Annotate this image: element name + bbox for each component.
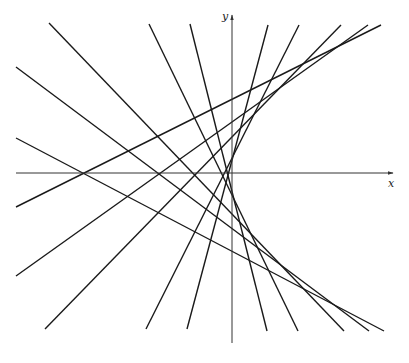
tangent-line [187, 25, 268, 329]
x-axis-label: x [388, 177, 395, 190]
y-axis-label: y [221, 10, 229, 23]
tangent-lines-diagram: x y [0, 0, 409, 363]
tangent-line [49, 23, 344, 331]
tangent-line [16, 67, 369, 331]
tangent-lines [16, 23, 384, 331]
tangent-line [146, 25, 299, 329]
